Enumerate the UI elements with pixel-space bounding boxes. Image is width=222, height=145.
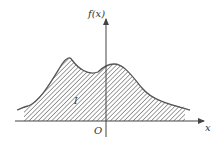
origin-label: O [94, 125, 102, 136]
y-axis-label: f(x) [87, 8, 105, 19]
x-axis-label: x [205, 122, 211, 133]
function-graph: f(x) x O I [0, 0, 222, 145]
region-label: I [73, 96, 78, 106]
